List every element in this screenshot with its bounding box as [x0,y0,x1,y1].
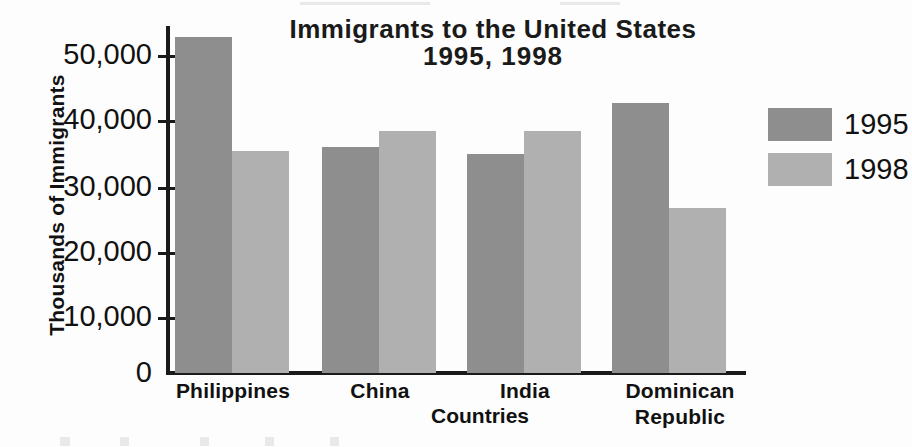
bar-india-1998 [524,131,581,373]
legend-label-1995: 1995 [844,108,909,141]
legend-item-1995: 1995 [768,108,909,141]
scan-artifact [330,437,339,446]
chart-page: Immigrants to the United States 1995, 19… [0,0,912,447]
scan-artifact [300,2,430,5]
scan-artifact [265,437,274,446]
legend-swatch-1998 [768,153,832,186]
legend-item-1998: 1998 [768,153,909,186]
bar-china-1995 [322,147,379,373]
bar-dominican-republic-1998 [669,208,726,373]
scan-artifact [60,437,70,446]
scan-artifact [560,2,620,5]
legend-label-1998: 1998 [844,153,909,186]
x-axis-title: Countries [380,404,580,428]
chart-legend: 1995 1998 [768,108,909,198]
x-category-label-dominican-republic: Dominican Republic [565,379,795,429]
bar-philippines-1995 [175,37,232,373]
bar-china-1998 [379,131,436,373]
bar-philippines-1998 [232,151,289,373]
legend-swatch-1995 [768,108,832,141]
bar-india-1995 [467,154,524,373]
scan-artifact [120,437,129,446]
bar-dominican-republic-1995 [612,103,669,373]
scan-artifact [200,437,209,446]
